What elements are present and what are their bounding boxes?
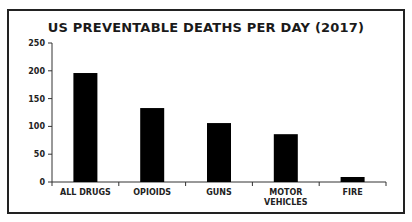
x-tick-label: VEHICLES <box>264 198 308 207</box>
y-tick-label: 0 <box>39 178 45 187</box>
x-tick-label: ALL DRUGS <box>60 188 111 197</box>
x-tick-label: GUNS <box>206 188 232 197</box>
bar <box>341 177 365 182</box>
y-tick-label: 50 <box>34 150 46 159</box>
y-tick-label: 150 <box>28 95 45 104</box>
x-tick-label: OPIOIDS <box>133 188 171 197</box>
y-tick-label: 250 <box>28 39 45 48</box>
y-tick-label: 100 <box>28 122 45 131</box>
bar <box>274 134 298 182</box>
x-axis: ALL DRUGSOPIOIDSGUNSMOTORVEHICLESFIRE <box>52 182 386 207</box>
bar <box>140 108 164 182</box>
x-tick-label: MOTOR <box>269 188 302 197</box>
x-tick-label: FIRE <box>343 188 363 197</box>
bar <box>207 123 231 182</box>
bar <box>73 73 97 182</box>
y-axis: 050100150200250 <box>28 39 52 187</box>
bars <box>73 73 364 182</box>
bar-chart: 050100150200250 ALL DRUGSOPIOIDSGUNSMOTO… <box>0 0 412 222</box>
y-tick-label: 200 <box>28 67 45 76</box>
